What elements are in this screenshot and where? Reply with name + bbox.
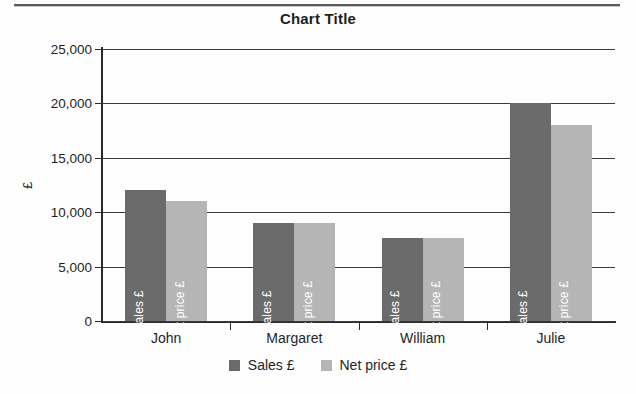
y-axis-tick-label: 25,000 bbox=[32, 42, 92, 57]
x-axis-tick bbox=[487, 322, 488, 330]
chart-title: Chart Title bbox=[0, 10, 636, 27]
legend-label: Net price £ bbox=[340, 357, 408, 373]
bar-inline-label: Sales £ bbox=[260, 290, 274, 331]
bar[interactable]: Sales £ bbox=[382, 238, 423, 321]
chart-legend: Sales £Net price £ bbox=[0, 357, 636, 373]
y-axis-tick bbox=[95, 267, 102, 268]
bar[interactable]: Net price £ bbox=[294, 223, 335, 321]
y-axis-tick-label: 0 bbox=[32, 314, 92, 329]
chart-page: Chart Title £ 05,00010,00015,00020,00025… bbox=[0, 0, 636, 394]
bar-inline-label: Sales £ bbox=[516, 290, 530, 331]
x-axis-tick bbox=[359, 322, 360, 330]
y-axis-tick bbox=[95, 321, 102, 322]
x-axis-category-label: William bbox=[400, 330, 445, 346]
y-axis-tick bbox=[95, 212, 102, 213]
legend-item[interactable]: Net price £ bbox=[321, 357, 408, 373]
y-axis-tick bbox=[95, 158, 102, 159]
legend-swatch-icon bbox=[321, 360, 332, 371]
bar[interactable]: Net price £ bbox=[551, 125, 592, 321]
x-axis-category-label: Margaret bbox=[266, 330, 322, 346]
y-axis-tick-labels: 05,00010,00015,00020,00025,000 bbox=[26, 0, 92, 394]
y-axis-tick-label: 15,000 bbox=[32, 150, 92, 165]
x-axis-category-label: Julie bbox=[536, 330, 565, 346]
y-axis-tick-label: 10,000 bbox=[32, 205, 92, 220]
x-axis-tick bbox=[230, 322, 231, 330]
gridline bbox=[102, 49, 615, 50]
top-divider-shadow bbox=[14, 6, 620, 7]
legend-label: Sales £ bbox=[248, 357, 295, 373]
legend-item[interactable]: Sales £ bbox=[229, 357, 295, 373]
y-axis-tick-label: 5,000 bbox=[32, 259, 92, 274]
y-axis-tick-label: 20,000 bbox=[32, 96, 92, 111]
bar[interactable]: Sales £ bbox=[253, 223, 294, 321]
bar[interactable]: Sales £ bbox=[510, 103, 551, 321]
x-axis-category-label: John bbox=[151, 330, 181, 346]
legend-swatch-icon bbox=[229, 360, 240, 371]
bar-inline-label: Sales £ bbox=[132, 290, 146, 331]
plot-area: Sales £Net price £Sales £Net price £Sale… bbox=[102, 49, 615, 321]
bar[interactable]: Net price £ bbox=[423, 238, 464, 321]
bar[interactable]: Sales £ bbox=[125, 190, 166, 321]
bar[interactable]: Net price £ bbox=[166, 201, 207, 321]
bar-inline-label: Sales £ bbox=[388, 290, 402, 331]
y-axis-tick bbox=[95, 49, 102, 50]
y-axis-tick bbox=[95, 103, 102, 104]
